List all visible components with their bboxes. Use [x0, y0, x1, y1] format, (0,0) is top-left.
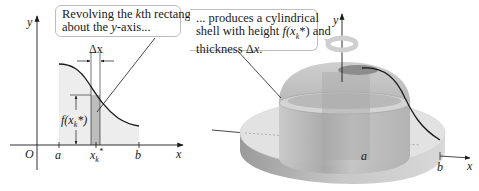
tick-label-b-3d: b [437, 160, 443, 174]
x-axis-label: x [175, 147, 182, 161]
tick-label-a: a [55, 148, 61, 162]
x-axis-front [440, 156, 470, 158]
inner-cylinder [322, 72, 370, 160]
callout-produces: ... produces a cylindrical shell with he… [190, 9, 318, 51]
x-axis-label-3d: x [466, 159, 473, 173]
rotation-arrow-icon [324, 38, 356, 50]
y-axis-label: y [26, 15, 33, 29]
callout-revolving: Revolving the kth rectangle about the y-… [55, 5, 181, 37]
kth-rectangle [91, 95, 100, 145]
origin-label: O [25, 147, 34, 161]
callout-pointer-left [97, 38, 155, 112]
tick-label-a-3d: a [361, 149, 367, 163]
tick-label-b: b [135, 148, 141, 162]
dome-top-shadow [338, 65, 378, 75]
delta-x-label: Δx [89, 42, 103, 56]
callout-pointer-right [235, 48, 281, 98]
tick-label-xk: xk* [89, 147, 103, 164]
y-axis-label-3d: y [332, 13, 339, 27]
left-diagram: y x O a b xk* Δx f(xk*) [10, 15, 183, 170]
